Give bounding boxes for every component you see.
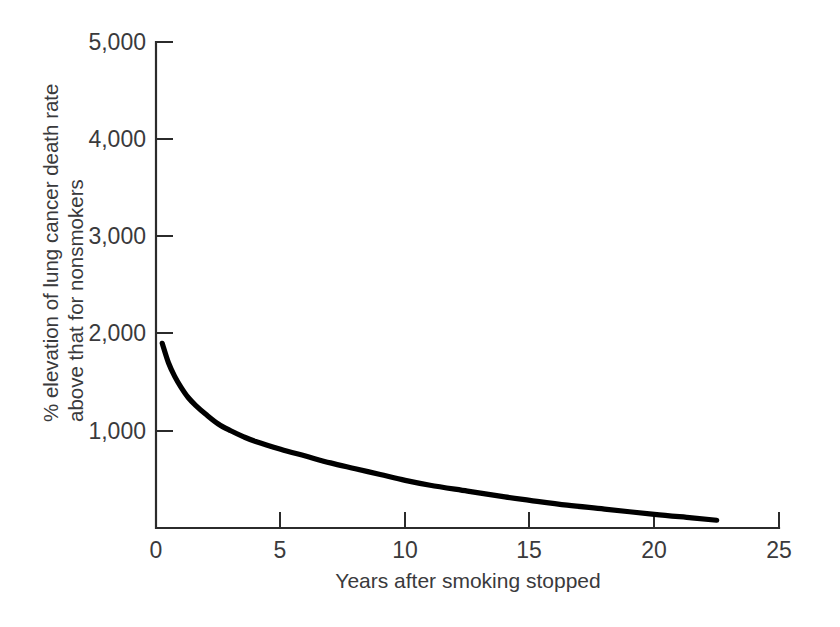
y-tick-label-3000: 3,000 — [88, 223, 146, 249]
x-tick-label-15: 15 — [516, 537, 542, 563]
data-curve-excess-death-rate — [162, 343, 716, 520]
y-tick-label-5000: 5,000 — [88, 29, 146, 55]
axis-lines — [156, 42, 779, 528]
y-tick-label-1000: 1,000 — [88, 418, 146, 444]
line-chart: 5,000 4,000 3,000 2,000 1,000 0 5 10 15 … — [0, 0, 840, 627]
y-axis-tick-labels: 5,000 4,000 3,000 2,000 1,000 — [88, 29, 146, 444]
y-tick-label-4000: 4,000 — [88, 126, 146, 152]
x-tick-label-0: 0 — [150, 537, 163, 563]
x-tick-label-5: 5 — [274, 537, 287, 563]
x-tick-label-10: 10 — [392, 537, 418, 563]
x-tick-label-25: 25 — [766, 537, 792, 563]
x-axis-title: Years after smoking stopped — [335, 569, 600, 592]
y-tick-label-2000: 2,000 — [88, 320, 146, 346]
y-axis-title-line2: above that for nonsmokers — [64, 179, 87, 422]
chart-figure: 5,000 4,000 3,000 2,000 1,000 0 5 10 15 … — [0, 0, 840, 627]
x-axis-tick-labels: 0 5 10 15 20 25 — [150, 537, 792, 563]
y-axis-title: % elevation of lung cancer death rate ab… — [39, 84, 87, 422]
y-axis-title-line1: % elevation of lung cancer death rate — [39, 84, 62, 422]
x-tick-label-20: 20 — [641, 537, 667, 563]
